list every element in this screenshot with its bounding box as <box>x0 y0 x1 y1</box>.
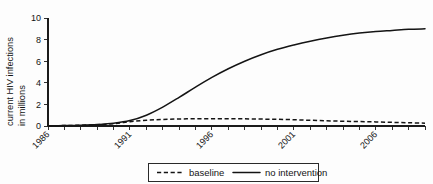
legend: baseline no intervention <box>149 164 328 182</box>
hiv-infections-line-chart: current HIV infections in millions 02468… <box>0 0 433 184</box>
y-tick-label: 10 <box>31 13 41 23</box>
series-line-no-intervention <box>48 29 425 126</box>
x-tick-label: 2006 <box>358 129 379 150</box>
y-tick-label: 4 <box>36 78 41 88</box>
y-axis-ticks: 0246810 <box>31 13 48 131</box>
y-tick-label: 8 <box>36 35 41 45</box>
y-axis-title-line2: in millions <box>17 85 27 126</box>
legend-label-no-intervention: no intervention <box>265 167 327 178</box>
y-tick-label: 2 <box>36 100 41 110</box>
y-axis-title: current HIV infections in millions <box>5 37 27 126</box>
x-tick-label: 1986 <box>30 129 51 150</box>
legend-label-baseline: baseline <box>189 167 224 178</box>
x-tick-label: 1996 <box>194 129 215 150</box>
x-tick-label: 2001 <box>276 129 297 150</box>
x-axis-tick-labels: 19861991199620012006 <box>30 129 379 150</box>
y-axis-title-line1: current HIV infections <box>5 37 15 126</box>
y-tick-label: 0 <box>36 121 41 131</box>
x-tick-label: 1991 <box>112 129 133 150</box>
y-tick-label: 6 <box>36 57 41 67</box>
chart-figure: current HIV infections in millions 02468… <box>0 0 433 184</box>
x-axis-ticks <box>48 126 425 130</box>
